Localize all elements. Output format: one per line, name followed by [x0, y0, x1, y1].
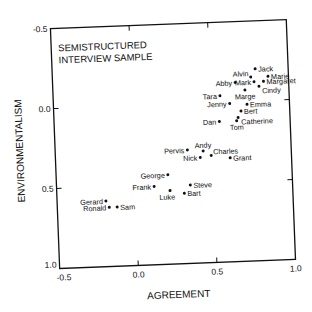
data-point: Sam [115, 202, 135, 212]
y-tick-label: 1.0 [44, 260, 56, 270]
point-marker [218, 94, 221, 97]
chart-title: SEMISTRUCTUREDINTERVIEW SAMPLE [58, 39, 153, 66]
data-point: Frank [132, 182, 155, 192]
point-label: Cindy [262, 85, 281, 95]
point-marker [166, 173, 169, 176]
point-marker [245, 103, 248, 106]
point-marker [186, 148, 189, 151]
x-tick-label: 0.0 [133, 269, 145, 279]
point-marker [218, 120, 221, 123]
point-label: Jenny [207, 100, 227, 110]
point-label: Grant [233, 153, 252, 163]
point-marker [257, 85, 260, 88]
data-point: Jenny [207, 99, 231, 109]
point-marker [108, 206, 111, 209]
point-marker [199, 156, 202, 159]
point-marker [254, 67, 257, 70]
point-marker [104, 200, 107, 203]
data-point: Bert [239, 106, 257, 116]
point-label: Bert [244, 106, 258, 116]
point-marker [189, 183, 192, 186]
data-point: Andy [194, 141, 211, 153]
point-marker [229, 156, 232, 159]
point-label: George [140, 171, 165, 181]
x-tick-label: -0.5 [56, 272, 71, 283]
data-point: Bart [183, 189, 201, 199]
y-tick-label: 0.0 [39, 104, 51, 114]
point-label: Pervis [164, 146, 185, 156]
point-marker [153, 185, 156, 188]
data-point: Cindy [257, 84, 281, 95]
point-label: Margaret [266, 76, 296, 86]
x-tick-label: 1.0 [290, 263, 302, 273]
point-marker [183, 192, 186, 195]
point-marker [237, 116, 240, 119]
data-point: Dan [203, 117, 221, 127]
data-point: Luke [159, 189, 175, 202]
point-label: Tom [230, 123, 244, 133]
point-label: Sam [120, 202, 135, 212]
point-label: Dan [203, 118, 217, 128]
data-point: Ronald [83, 203, 111, 213]
data-points: JackMarieAlvinMarkMargaretCindyAbbyMarge… [75, 63, 300, 213]
x-axis-label: AGREEMENT [147, 288, 211, 301]
point-label: Bart [187, 189, 201, 199]
data-point: Mark [235, 78, 256, 88]
y-tick-label: -0.5 [33, 24, 48, 35]
data-point: George [140, 171, 169, 181]
point-label: Mark [235, 78, 252, 88]
point-marker [116, 205, 119, 208]
point-marker [262, 80, 265, 83]
data-point: Nick [183, 153, 202, 163]
title-line: INTERVIEW SAMPLE [58, 51, 152, 66]
point-label: Nick [183, 154, 198, 164]
point-label: Ronald [83, 203, 106, 213]
point-marker [252, 80, 255, 83]
point-marker [228, 102, 231, 105]
point-marker [239, 109, 242, 112]
point-label: Abby [215, 79, 232, 89]
point-label: Andy [194, 141, 211, 151]
point-label: Luke [159, 192, 175, 202]
y-tick-label: 0.5 [42, 184, 54, 194]
data-point: Abby [215, 78, 236, 88]
x-tick-label: 0.5 [211, 266, 223, 276]
scatter-chart: -0.50.00.51.0-0.50.00.51.0 SEMISTRUCTURE… [0, 0, 312, 312]
y-axis-label: ENVIRONMENTALISM [12, 99, 27, 203]
point-label: Frank [132, 182, 151, 192]
point-label: Catherine [241, 116, 273, 126]
